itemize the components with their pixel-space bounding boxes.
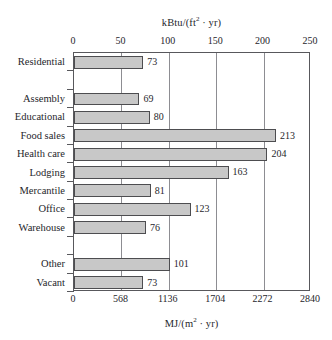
bottom-tick-label: 1136 — [158, 293, 178, 304]
bar-row: 163 — [74, 166, 309, 179]
bar — [74, 166, 229, 179]
bottom-axis-title: MJ/(m2 · yr) — [73, 316, 310, 329]
category-label: Office — [38, 203, 65, 214]
bar-row: 76 — [74, 221, 309, 234]
bar-value-label: 80 — [150, 112, 164, 123]
top-tick-label: 250 — [303, 35, 318, 46]
bar-value-label: 73 — [143, 277, 157, 288]
bar-row: 204 — [74, 148, 309, 161]
bars-layer: 736980213204163811237610173 — [74, 53, 309, 290]
bar-row: 80 — [74, 111, 309, 124]
bar — [74, 203, 191, 216]
bar — [74, 56, 143, 69]
y-tick-mark — [67, 291, 74, 292]
category-label: Health care — [17, 148, 65, 159]
bottom-tick-label: 2840 — [300, 293, 320, 304]
bar-row: 69 — [74, 93, 309, 106]
bottom-tick-label: 568 — [113, 293, 128, 304]
bar — [74, 148, 267, 161]
bar-row: 213 — [74, 129, 309, 142]
category-label: Food sales — [20, 129, 65, 140]
bar — [74, 93, 139, 106]
bar-value-label: 81 — [151, 185, 165, 196]
bar-value-label: 204 — [267, 148, 286, 159]
category-label: Educational — [15, 111, 65, 122]
bar — [74, 276, 143, 289]
bar — [74, 221, 146, 234]
bar-row: 81 — [74, 184, 309, 197]
bottom-axis-title-prefix: MJ/(m — [165, 318, 194, 329]
category-label: Vacant — [36, 276, 65, 287]
top-tick-label: 0 — [71, 35, 76, 46]
bar — [74, 129, 276, 142]
bar-value-label: 163 — [229, 167, 248, 178]
bar-value-label: 123 — [191, 204, 210, 215]
bar — [74, 258, 170, 271]
bar-value-label: 101 — [170, 259, 189, 270]
top-axis-title: kBtu/(ft2 · yr) — [73, 15, 310, 28]
bar-value-label: 213 — [276, 130, 295, 141]
bottom-axis-tick-labels: 05681136170422722840 — [73, 293, 310, 306]
category-label: Warehouse — [19, 221, 65, 232]
top-tick-label: 50 — [115, 35, 125, 46]
bar-value-label: 73 — [143, 56, 157, 67]
category-label: Assembly — [23, 92, 65, 103]
top-tick-label: 100 — [160, 35, 175, 46]
bar-value-label: 76 — [146, 222, 160, 233]
bar-row: 123 — [74, 203, 309, 216]
top-axis-tick-labels: 050100150200250 — [73, 35, 310, 48]
y-axis-category-labels: ResidentialAssemblyEducationalFood sales… — [0, 52, 69, 291]
bar-chart-figure: kBtu/(ft2 · yr) 050100150200250 73698021… — [0, 0, 332, 340]
bar — [74, 111, 150, 124]
category-label: Mercantile — [20, 184, 65, 195]
bar-value-label: 69 — [139, 93, 153, 104]
bar-row: 73 — [74, 276, 309, 289]
bottom-tick-label: 0 — [71, 293, 76, 304]
top-tick-label: 150 — [208, 35, 223, 46]
top-tick-label: 200 — [255, 35, 270, 46]
top-axis-title-suffix: · yr) — [200, 17, 222, 28]
category-label: Lodging — [29, 166, 65, 177]
bar — [74, 184, 151, 197]
top-axis-title-prefix: kBtu/(ft — [162, 17, 196, 28]
bottom-tick-label: 2272 — [253, 293, 273, 304]
bottom-tick-label: 1704 — [205, 293, 225, 304]
category-label: Other — [41, 258, 65, 269]
plot-area: 736980213204163811237610173 — [73, 52, 310, 291]
bar-row: 101 — [74, 258, 309, 271]
bar-row: 73 — [74, 56, 309, 69]
category-label: Residential — [18, 56, 65, 67]
bottom-axis-title-suffix: · yr) — [197, 318, 219, 329]
